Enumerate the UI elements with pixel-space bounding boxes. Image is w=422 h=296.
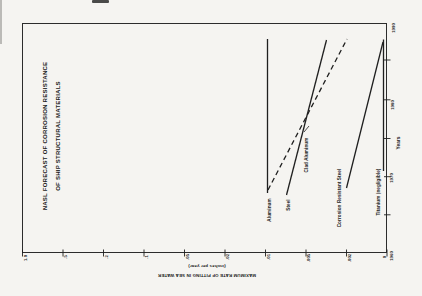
year-tick-label: 1970: [388, 173, 393, 183]
chart-title-line1: NASL FORECAST OF CORROSION RESISTANCE: [39, 62, 52, 211]
axis-ticks-group: [23, 60, 391, 257]
chart-title: NASL FORECAST OF CORROSION RESISTANCE OF…: [39, 62, 64, 211]
scanned-figure-page: NASL FORECAST OF CORROSION RESISTANCE OF…: [0, 0, 422, 296]
rate-tick-label: .05: [184, 254, 189, 260]
cres-line: [347, 42, 384, 188]
line-label-aluminum: Aluminum: [266, 198, 271, 221]
year-tick-label: 1990: [390, 23, 395, 33]
rate-axis-title-line1: MAXIMUM RATE OF PITTING IN SEA WATER: [158, 270, 256, 279]
rate-axis-title: MAXIMUM RATE OF PITTING IN SEA WATER (in…: [158, 262, 256, 279]
chart-title-line2: OF SHIP STRUCTURAL MATERIALS: [51, 62, 64, 211]
rate-tick-label: .01: [265, 254, 270, 260]
line-label-steel: Steel: [285, 199, 290, 210]
clad-aluminum-leader: [304, 126, 309, 132]
rate-tick-label: 1.0: [22, 254, 27, 260]
rate-tick-label: .002: [346, 253, 351, 262]
plot-lines-group: [268, 39, 384, 195]
rate-tick-label: .005: [306, 253, 311, 262]
rate-tick-label: .2: [103, 255, 108, 259]
year-axis-title: Years: [396, 137, 401, 150]
year-tick-label: 1960: [388, 251, 393, 261]
year-tick-label: 1980: [389, 100, 394, 110]
line-label-clad-aluminum: Clad Aluminum: [303, 138, 308, 173]
line-label-titanium: Titanium (negligible): [375, 169, 380, 216]
rate-tick-label: .5: [63, 255, 68, 259]
rate-tick-label: .1: [144, 255, 149, 259]
rate-tick-label: .02: [225, 254, 230, 260]
rate-axis-title-line2: (inches per year): [158, 262, 256, 271]
line-label-corrosion-resistant-steel: Corrosion Resistant Steel: [337, 168, 342, 227]
rate-tick-label: 0: [381, 256, 386, 258]
